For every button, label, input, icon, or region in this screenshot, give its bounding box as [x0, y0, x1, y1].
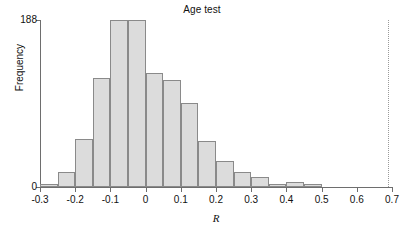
x-tick-mark	[392, 187, 393, 192]
x-tick-label: 0	[143, 194, 149, 206]
histogram-bar	[198, 141, 216, 187]
histogram-bar	[269, 184, 287, 187]
histogram-bars	[40, 20, 392, 187]
x-tick-mark	[286, 187, 287, 192]
histogram-bar	[163, 80, 181, 187]
histogram-bar	[234, 172, 252, 187]
reference-line	[388, 20, 389, 187]
histogram-bar	[58, 172, 76, 187]
histogram-bar	[40, 184, 58, 187]
x-tick-label: -0.2	[67, 194, 84, 206]
histogram-figure: Age test Frequency 0188 -0.3-0.2-0.100.1…	[0, 0, 404, 228]
x-tick-label: 0.6	[350, 194, 364, 206]
x-tick-mark	[357, 187, 358, 192]
x-tick-mark	[110, 187, 111, 192]
x-tick-mark	[181, 187, 182, 192]
y-axis-label: Frequency	[14, 13, 25, 123]
x-tick-mark	[322, 187, 323, 192]
y-tick-label: 188	[20, 14, 37, 25]
histogram-bar	[251, 177, 269, 187]
chart-title: Age test	[0, 4, 404, 15]
x-tick-label: 0.1	[174, 194, 188, 206]
histogram-bar	[216, 161, 234, 187]
x-tick-label: 0.7	[385, 194, 399, 206]
histogram-bar	[75, 139, 93, 187]
histogram-bar	[286, 182, 304, 187]
x-axis-label: R	[40, 212, 392, 224]
histogram-bar	[181, 103, 199, 187]
x-tick-label: -0.3	[31, 194, 48, 206]
x-tick-label: 0.5	[315, 194, 329, 206]
x-tick-mark	[146, 187, 147, 192]
plot-area: 0188 -0.3-0.2-0.100.10.20.30.40.50.60.7 …	[40, 20, 392, 187]
x-tick-label: 0.3	[244, 194, 258, 206]
y-tick-label: 0	[31, 181, 37, 192]
histogram-bar	[93, 78, 111, 187]
x-tick-mark	[251, 187, 252, 192]
x-tick-mark	[75, 187, 76, 192]
x-tick-mark	[40, 187, 41, 192]
x-tick-label: 0.2	[209, 194, 223, 206]
histogram-bar	[128, 20, 146, 187]
histogram-bar	[304, 184, 322, 187]
histogram-bar	[146, 73, 164, 187]
x-tick-label: -0.1	[102, 194, 119, 206]
x-tick-mark	[216, 187, 217, 192]
x-tick-label: 0.4	[279, 194, 293, 206]
histogram-bar	[110, 20, 128, 187]
